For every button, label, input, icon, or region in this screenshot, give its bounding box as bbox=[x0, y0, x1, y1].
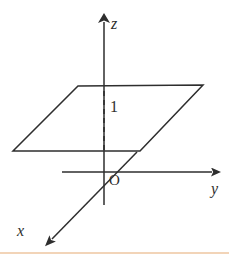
footer-divider bbox=[0, 252, 229, 254]
height-value-label: 1 bbox=[110, 99, 118, 115]
origin-label: O bbox=[109, 173, 120, 188]
figure-container: z y x 1 O bbox=[0, 0, 229, 259]
plane-parallelogram bbox=[13, 85, 203, 151]
x-axis-label: x bbox=[17, 223, 24, 239]
x-axis-line bbox=[52, 152, 137, 239]
z-axis-label: z bbox=[111, 16, 117, 32]
y-axis-label: y bbox=[211, 181, 218, 197]
coordinate-diagram bbox=[0, 0, 229, 259]
